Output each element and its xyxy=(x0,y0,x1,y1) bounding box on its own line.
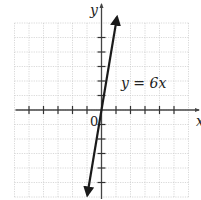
origin-label: 0 xyxy=(90,114,98,129)
x-axis-label: x xyxy=(196,113,201,129)
line-graph: y x 0 y = 6x xyxy=(0,0,201,200)
equation-label: y = 6x xyxy=(120,75,166,91)
y-axis-label: y xyxy=(89,2,99,18)
